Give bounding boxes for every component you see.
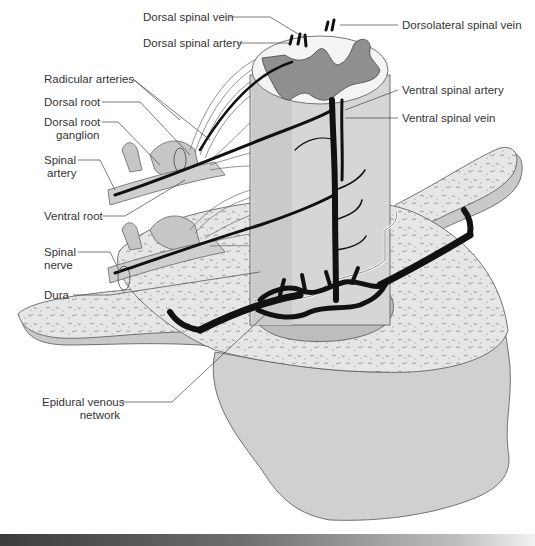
label-spinal-artery: Spinal artery (44, 154, 76, 180)
label-dorsal-root-ganglion: Dorsal root ganglion (44, 116, 100, 142)
label-spinal-nerve: Spinal nerve (44, 246, 76, 272)
label-dorsal-spinal-artery: Dorsal spinal artery (143, 37, 242, 50)
label-epidural-venous-network-line2: network (42, 409, 120, 422)
label-radicular-arteries: Radicular arteries (44, 73, 134, 86)
label-spinal-nerve-line1: Spinal (44, 246, 76, 259)
label-ventral-spinal-artery: Ventral spinal artery (402, 84, 504, 97)
label-ventral-spinal-vein: Ventral spinal vein (402, 112, 495, 125)
label-dorsal-spinal-vein: Dorsal spinal vein (143, 11, 234, 24)
label-dorsal-root-ganglion-line1: Dorsal root (44, 116, 100, 129)
label-dura: Dura (44, 289, 69, 302)
label-epidural-venous-network: Epidural venous network (42, 396, 120, 422)
label-ventral-root: Ventral root (44, 210, 103, 223)
figure-caption-bar (0, 534, 535, 546)
label-epidural-venous-network-line1: Epidural venous (42, 396, 120, 409)
label-spinal-artery-line1: Spinal (44, 154, 76, 167)
label-dorsal-root-ganglion-line2: ganglion (44, 129, 100, 142)
label-dorsolateral-spinal-vein: Dorsolateral spinal vein (402, 19, 522, 32)
label-spinal-nerve-line2: nerve (44, 259, 76, 272)
label-dorsal-root: Dorsal root (44, 96, 100, 109)
label-spinal-artery-line2: artery (44, 167, 76, 180)
